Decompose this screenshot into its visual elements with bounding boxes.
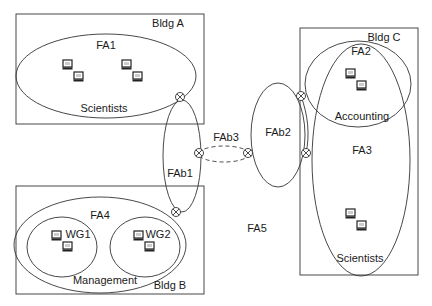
fa3-area — [312, 44, 410, 276]
fab2-label: FAb2 — [265, 126, 291, 138]
fa1-group-label: Scientists — [80, 102, 128, 114]
fa2-label: FA2 — [351, 45, 371, 57]
computer-icon — [134, 231, 144, 241]
fa1-label: FA1 — [96, 39, 116, 51]
fa3-group-label: Scientists — [336, 252, 384, 264]
bldg-a-label: Bldg A — [152, 17, 184, 29]
computer-icon — [133, 72, 143, 82]
computer-icon — [145, 242, 155, 252]
router-connector-icon — [302, 149, 311, 158]
connectors-layer — [172, 92, 311, 217]
computer-icon — [357, 221, 367, 231]
computer-icon — [52, 231, 62, 241]
fa4-label: FA4 — [90, 209, 110, 221]
fab1-label: FAb1 — [167, 167, 193, 179]
bldg-b-label: Bldg B — [154, 279, 186, 291]
fa3-label: FA3 — [352, 144, 372, 156]
fa5-label: FA5 — [247, 222, 267, 234]
router-connector-icon — [297, 92, 306, 101]
fa2-group-label: Accounting — [335, 110, 389, 122]
labels-layer: Bldg ABldg BBldg CFA1ScientistsFA4Manage… — [65, 17, 400, 291]
router-connector-icon — [195, 149, 204, 158]
wg2-label: WG2 — [145, 228, 170, 240]
fa4-group-label: Management — [73, 274, 137, 286]
router-connector-icon — [176, 93, 185, 102]
computer-icon — [122, 60, 132, 70]
wg1-label: WG1 — [65, 228, 90, 240]
network-flow-diagram: Bldg ABldg BBldg CFA1ScientistsFA4Manage… — [0, 0, 432, 306]
computer-icon — [63, 242, 73, 252]
computer-icon — [346, 69, 356, 79]
fab3-area — [199, 146, 249, 162]
router-connector-icon — [244, 149, 253, 158]
computer-icon — [357, 81, 367, 91]
computer-icon — [74, 72, 84, 82]
router-connector-icon — [172, 208, 181, 217]
computer-icon — [63, 60, 73, 70]
computer-icon — [346, 209, 356, 219]
bldg-c-label: Bldg C — [367, 31, 400, 43]
fab3-label: FAb3 — [213, 131, 239, 143]
wg1-area — [27, 217, 97, 277]
